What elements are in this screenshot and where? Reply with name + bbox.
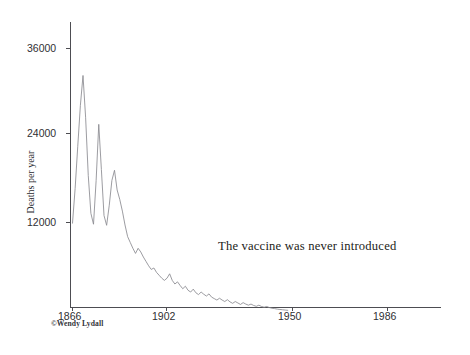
data-series-line — [73, 75, 288, 310]
y-tick-label-36000: 36000 — [27, 43, 56, 54]
x-tick-label-1902: 1902 — [152, 311, 175, 322]
chart-figure: Deaths per year 36000 24000 12000 1866 1… — [0, 0, 470, 355]
copyright-credit: ©Wendy Lydall — [51, 319, 103, 328]
chart-annotation: The vaccine was never introduced — [218, 239, 396, 254]
y-tick-label-12000: 12000 — [27, 217, 56, 228]
y-axis-title: Deaths per year — [25, 150, 36, 213]
x-tick-label-1950: 1950 — [278, 311, 301, 322]
chart-plot-area: Deaths per year — [0, 0, 470, 355]
x-tick-label-1986: 1986 — [373, 311, 396, 322]
y-tick-label-24000: 24000 — [27, 128, 56, 139]
